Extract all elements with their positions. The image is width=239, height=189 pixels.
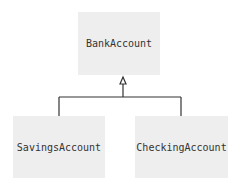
class-name: CheckingAccount (136, 142, 226, 153)
class-name: SavingsAccount (17, 142, 101, 153)
generalization-arrow-icon (120, 77, 126, 84)
class-box-savingsaccount: SavingsAccount (13, 116, 105, 178)
class-name: BankAccount (86, 38, 152, 49)
class-box-bankaccount: BankAccount (78, 12, 160, 75)
class-box-checkingaccount: CheckingAccount (135, 116, 228, 178)
